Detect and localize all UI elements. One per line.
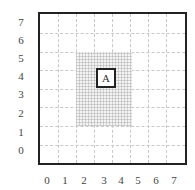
shaded-region: [76, 52, 132, 126]
grid-line-horizontal: [40, 126, 185, 127]
x-axis-label: 6: [151, 175, 161, 186]
x-axis-label: 3: [99, 175, 109, 186]
grid-frame: A: [38, 12, 187, 165]
marker-a: A: [96, 68, 116, 88]
x-axis-label: 0: [42, 175, 52, 186]
grid-line-horizontal: [40, 33, 185, 34]
x-axis-label: 4: [116, 175, 126, 186]
x-axis-label: 7: [169, 175, 179, 186]
x-axis-label: 2: [79, 175, 89, 186]
y-axis-label: 0: [16, 145, 26, 156]
y-axis-label: 6: [16, 35, 26, 46]
y-axis-label: 3: [16, 89, 26, 100]
y-axis-label: 5: [16, 53, 26, 64]
y-axis-label: 4: [16, 71, 26, 82]
y-axis-label: 7: [16, 17, 26, 28]
x-axis-label: 5: [133, 175, 143, 186]
x-axis-label: 1: [60, 175, 70, 186]
grid-line-horizontal: [40, 145, 185, 146]
y-axis-label: 1: [16, 127, 26, 138]
y-axis-label: 2: [16, 108, 26, 119]
marker-label: A: [102, 72, 110, 84]
